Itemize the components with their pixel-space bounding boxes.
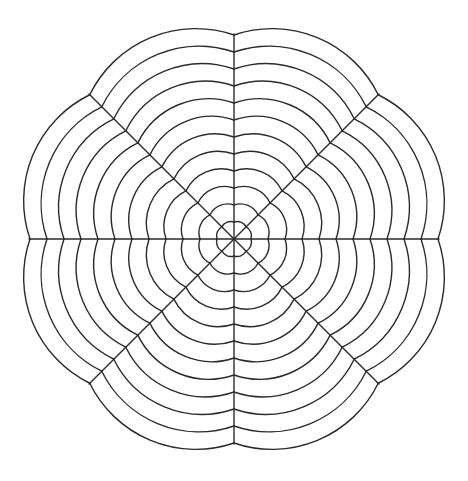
mandala-figure (0, 0, 468, 481)
page-root: · · · · · (0, 0, 468, 481)
mandala-canvas (0, 0, 468, 481)
spokes-group (29, 34, 439, 444)
